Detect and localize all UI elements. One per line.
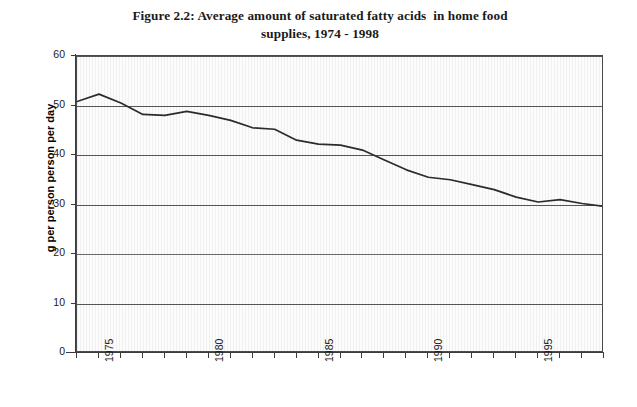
x-tick-1981 [230,352,231,358]
x-tick-1994 [515,352,516,358]
y-axis-label-60: 60 [31,48,65,60]
y-tick-20 [71,253,76,254]
x-tick-1984 [296,352,297,358]
x-tick-1974 [76,352,77,358]
x-tick-1993 [493,352,494,358]
x-tick-1982 [252,352,253,358]
x-tick-1992 [471,352,472,358]
x-axis-label-1980: 1980 [213,339,225,362]
x-tick-1980 [208,352,209,358]
chart-title-line-2: supplies, 1974 - 1998 [60,25,580,43]
x-tick-1985 [318,352,319,358]
chart-title: Figure 2.2: Average amount of saturated … [60,7,580,43]
x-tick-1975 [98,352,99,358]
x-axis-label-1975: 1975 [103,339,115,362]
x-tick-1988 [383,352,384,358]
x-axis-label-1990: 1990 [432,339,444,362]
series-line [77,94,603,206]
x-tick-1987 [361,352,362,358]
chart-title-line-1: Figure 2.2: Average amount of saturated … [60,7,580,25]
y-tick-50 [71,105,76,106]
x-tick-1977 [142,352,143,358]
y-axis-label-0: 0 [31,345,65,357]
x-tick-1979 [186,352,187,358]
series-saturated-fatty-acids [77,56,603,352]
y-axis-label-20: 20 [31,246,65,258]
x-tick-1991 [449,352,450,358]
y-tick-40 [71,154,76,155]
x-tick-1996 [559,352,560,358]
x-tick-1976 [120,352,121,358]
x-tick-1989 [405,352,406,358]
x-tick-1997 [581,352,582,358]
x-axis-label-1985: 1985 [323,339,335,362]
y-axis-label-10: 10 [31,296,65,308]
y-tick-60 [71,55,76,56]
x-tick-1983 [274,352,275,358]
x-tick-1986 [340,352,341,358]
y-axis-label-40: 40 [31,147,65,159]
x-tick-1998 [603,352,604,358]
y-axis-label-30: 30 [31,197,65,209]
x-tick-1995 [537,352,538,358]
x-tick-1990 [427,352,428,358]
y-tick-30 [71,204,76,205]
figure-container: Figure 2.2: Average amount of saturated … [0,0,637,407]
plot-area [76,55,603,352]
y-tick-10 [71,303,76,304]
y-axis-label-50: 50 [31,98,65,110]
x-tick-1978 [164,352,165,358]
x-axis-label-1995: 1995 [542,339,554,362]
